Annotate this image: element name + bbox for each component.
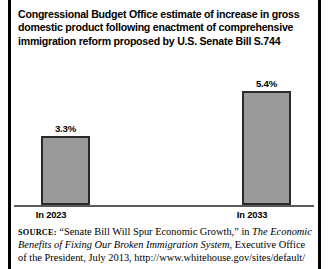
- source-label: SOURCE:: [18, 228, 57, 237]
- frame-rule-left: [8, 0, 11, 269]
- bar-value-2023: 3.3%: [35, 123, 96, 134]
- source-publication-title-part-1: The Economic: [252, 226, 312, 237]
- bar-value-2033: 5.4%: [236, 78, 297, 89]
- chart-title-line-2: domestic product following enactment of …: [18, 21, 297, 34]
- bar-group-2023: 3.3%: [41, 62, 90, 205]
- source-note-line-3: of the President, July 2013, http://www.…: [18, 252, 314, 264]
- bar-chart-plot-area: 3.3% 5.4%: [14, 62, 314, 207]
- chart-title-line-3: immigration reform proposed by U.S. Sena…: [18, 35, 297, 48]
- chart-title-line-1: Congressional Budget Office estimate of …: [18, 8, 297, 21]
- chart-title: Congressional Budget Office estimate of …: [18, 8, 297, 48]
- source-note-line-1: SOURCE: “Senate Bill Will Spur Economic …: [18, 226, 314, 239]
- category-label-2033: In 2033: [215, 209, 289, 220]
- source-line-1-text: “Senate Bill Will Spur Economic Growth,”…: [57, 226, 252, 237]
- bar-2033: [242, 91, 291, 205]
- source-line-2-text: , Executive Office: [229, 239, 305, 250]
- bar-group-2033: 5.4%: [242, 62, 291, 205]
- frame-rule-right: [318, 0, 321, 269]
- bar-2023: [41, 136, 90, 205]
- category-label-2023: In 2023: [14, 209, 88, 220]
- figure-panel: Congressional Budget Office estimate of …: [0, 0, 329, 269]
- source-note: SOURCE: “Senate Bill Will Spur Economic …: [18, 226, 314, 264]
- source-note-line-2: Benefits of Fixing Our Broken Immigratio…: [18, 239, 314, 251]
- x-axis-baseline: [14, 205, 314, 207]
- source-publication-title-part-2: Benefits of Fixing Our Broken Immigratio…: [18, 239, 229, 250]
